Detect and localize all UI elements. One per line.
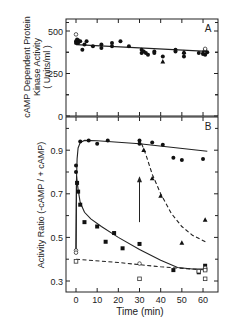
y-tick-label: 0.9 <box>50 146 63 156</box>
dashed-fit-line <box>76 259 207 270</box>
data-point-circle-open <box>74 251 78 255</box>
y-tick-label: 0.3 <box>50 277 63 287</box>
data-point-circle-filled <box>197 51 201 55</box>
data-point-triangle-filled <box>141 148 146 152</box>
data-point-circle-filled <box>173 49 177 53</box>
data-point-square-filled <box>76 190 80 194</box>
panel-label: B <box>205 121 212 132</box>
data-point-triangle-filled <box>160 59 165 63</box>
x-tick-label: 20 <box>113 295 123 305</box>
data-point-circle-filled <box>74 163 78 167</box>
data-point-square-open <box>74 260 78 264</box>
x-tick-label: 10 <box>92 295 102 305</box>
fit-line <box>76 176 207 269</box>
x-axis-label: Time (min) <box>116 306 163 317</box>
x-tick-label: 40 <box>156 295 166 305</box>
data-point-circle-open <box>74 33 78 37</box>
data-point-square-filled <box>121 246 125 250</box>
data-point-circle-filled <box>82 43 86 47</box>
data-point-square-filled <box>82 220 86 224</box>
x-tick-label: 60 <box>198 295 208 305</box>
data-point-circle-filled <box>87 138 91 142</box>
fit-line <box>76 140 207 250</box>
data-point-square-filled <box>112 231 116 235</box>
data-point-circle-filled <box>182 55 186 59</box>
data-point-triangle-filled <box>179 240 184 244</box>
x-tick-label: 0 <box>73 295 78 305</box>
panel-a: 0250500AcAMP Dependent ProteinKinase Act… <box>22 16 218 121</box>
data-point-circle-filled <box>146 53 150 57</box>
data-point-circle-open <box>138 262 142 266</box>
data-point-circle-filled <box>161 55 165 59</box>
data-point-square-filled <box>104 240 108 244</box>
data-point-circle-filled <box>78 139 82 143</box>
y-tick-label: 0.5 <box>50 233 63 243</box>
x-tick-label: 30 <box>135 295 145 305</box>
data-point-circle-filled <box>150 141 154 145</box>
data-point-square-open <box>197 269 201 273</box>
data-point-circle-filled <box>85 39 89 43</box>
data-point-circle-filled <box>138 142 142 146</box>
data-point-circle-filled <box>78 39 82 43</box>
data-point-circle-filled <box>127 44 131 48</box>
data-point-circle-filled <box>74 170 78 174</box>
plot-frame <box>66 117 218 292</box>
data-point-circle-filled <box>161 143 165 147</box>
data-point-square-open <box>138 277 142 281</box>
figure: 0250500AcAMP Dependent ProteinKinase Act… <box>0 0 232 331</box>
data-point-circle-filled <box>118 39 122 43</box>
data-point-square-filled <box>171 268 175 272</box>
data-point-circle-filled <box>180 158 184 162</box>
arrow-head-icon <box>137 176 142 182</box>
data-point-circle-filled <box>106 138 110 142</box>
y-tick-label: 0.7 <box>50 189 63 199</box>
data-point-square-filled <box>78 203 82 207</box>
data-point-circle-filled <box>201 157 205 161</box>
panel-b: 0.30.50.70.90102030405060BActivity Ratio… <box>36 117 218 305</box>
y-tick-label: 500 <box>48 27 63 37</box>
plot-frame <box>66 19 218 116</box>
panel-label: A <box>205 23 212 34</box>
data-point-circle-filled <box>95 142 99 146</box>
y-axis-label-b: Activity Ratio (-cAMP / + cAMP) <box>36 142 46 269</box>
data-point-triangle-filled <box>150 176 155 180</box>
data-point-circle-open <box>203 47 207 51</box>
data-point-square-filled <box>95 225 99 229</box>
data-point-circle-filled <box>80 48 84 52</box>
data-point-square-open <box>203 277 207 281</box>
data-point-circle-filled <box>91 44 95 48</box>
data-point-circle-filled <box>171 156 175 160</box>
data-point-triangle-filled <box>158 193 163 197</box>
data-point-circle-filled <box>110 44 114 48</box>
data-point-circle-filled <box>99 46 103 50</box>
data-point-circle-filled <box>152 51 156 55</box>
data-point-square-open <box>203 268 207 272</box>
data-point-square-filled <box>75 181 79 185</box>
y-tick-label: 0 <box>58 112 63 122</box>
data-point-square-filled <box>138 242 142 246</box>
x-tick-label: 50 <box>177 295 187 305</box>
data-point-triangle-filled <box>203 217 208 221</box>
